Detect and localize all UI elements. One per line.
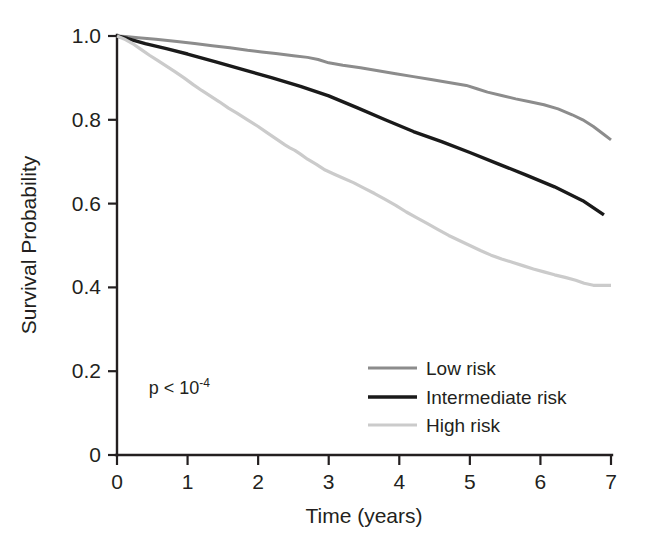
x-axis: 01234567: [111, 455, 617, 493]
series-line-high-risk: [117, 36, 611, 285]
y-tick-label: 0.6: [72, 192, 101, 215]
x-tick-label: 1: [182, 470, 194, 493]
p-value-exponent: -4: [199, 376, 210, 390]
y-tick-label: 1.0: [72, 24, 101, 47]
p-value-text: p < 10: [149, 378, 200, 398]
y-axis-title: Survival Probability: [17, 155, 40, 334]
y-tick-label: 0.2: [72, 359, 101, 382]
legend-label-low-risk: Low risk: [426, 358, 496, 379]
y-tick-label: 0.8: [72, 108, 101, 131]
x-axis-title: Time (years): [305, 504, 422, 527]
x-tick-label: 2: [252, 470, 264, 493]
annotation-layer: p < 10-4: [149, 376, 211, 398]
legend-label-high-risk: High risk: [426, 415, 500, 436]
x-tick-label: 4: [393, 470, 405, 493]
series-layer: [117, 36, 611, 285]
series-line-low-risk: [117, 36, 611, 140]
x-tick-label: 5: [464, 470, 476, 493]
legend-label-intermediate-risk: Intermediate risk: [426, 387, 567, 408]
x-tick-label: 7: [605, 470, 617, 493]
x-tick-label: 3: [323, 470, 335, 493]
p-value-annotation: p < 10-4: [149, 376, 211, 398]
chart-legend: Low riskIntermediate riskHigh risk: [368, 358, 567, 436]
y-tick-label: 0: [89, 443, 101, 466]
y-tick-label: 0.4: [72, 275, 102, 298]
x-tick-label: 6: [535, 470, 547, 493]
x-tick-label: 0: [111, 470, 123, 493]
survival-curve-figure: 00.20.40.60.81.0 01234567 Low riskInterm…: [0, 0, 654, 549]
kaplan-meier-chart: 00.20.40.60.81.0 01234567 Low riskInterm…: [0, 0, 654, 549]
y-axis: 00.20.40.60.81.0: [72, 24, 117, 466]
